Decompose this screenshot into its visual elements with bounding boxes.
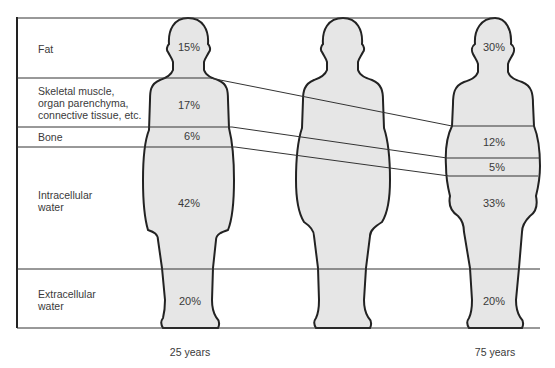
label-muscle-line3: connective tissue, etc. xyxy=(38,109,141,122)
young-bone-pct: 6% xyxy=(172,130,212,142)
old-ecw-pct: 20% xyxy=(474,295,514,307)
old-bone-pct: 5% xyxy=(477,161,517,173)
age-label-75: 75 years xyxy=(465,346,525,358)
old-fat-pct: 30% xyxy=(474,41,514,53)
old-muscle-pct: 12% xyxy=(474,136,514,148)
age-label-25: 25 years xyxy=(160,346,220,358)
body-composition-diagram xyxy=(0,0,555,368)
young-muscle-pct: 17% xyxy=(169,99,209,111)
young-fat-pct: 15% xyxy=(169,41,209,53)
label-bone: Bone xyxy=(38,131,63,144)
label-muscle-line1: Skeletal muscle, xyxy=(38,85,114,98)
label-icw-line2: water xyxy=(38,201,64,214)
label-muscle-line2: organ parenchyma, xyxy=(38,97,128,110)
label-icw-line1: Intracellular xyxy=(38,189,92,202)
figure-75-years xyxy=(446,18,540,328)
label-fat: Fat xyxy=(38,43,53,56)
young-icw-pct: 42% xyxy=(169,197,209,209)
figure-25-years xyxy=(143,18,234,328)
old-icw-pct: 33% xyxy=(474,197,514,209)
young-ecw-pct: 20% xyxy=(170,295,210,307)
figure-middle xyxy=(296,18,390,328)
label-ecw-line1: Extracellular xyxy=(38,288,96,301)
label-ecw-line2: water xyxy=(38,300,64,313)
